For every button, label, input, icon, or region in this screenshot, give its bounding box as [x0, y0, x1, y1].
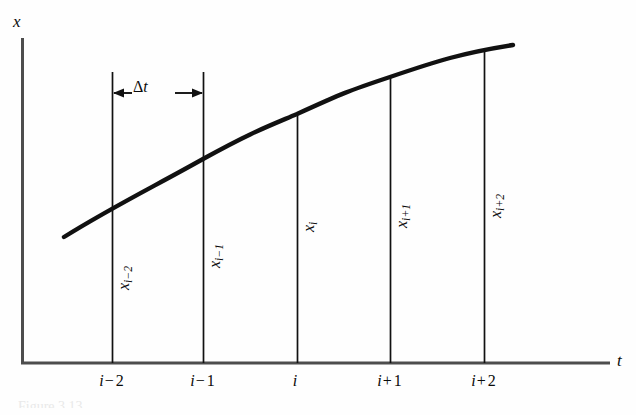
ordinate-sub-4: i+2: [494, 194, 506, 211]
tick-num-2: [299, 372, 301, 389]
tick-num-4: 2: [487, 372, 497, 389]
x-axis-label: t: [617, 352, 622, 369]
ordinate-label-i-plus-1: xi+1: [394, 204, 413, 228]
ordinate-base-2: x: [300, 225, 317, 232]
ordinate-base-1: x: [206, 261, 223, 268]
ordinate-label-i-minus-2: xi−2: [116, 266, 135, 290]
tick-label-i-plus-2: i+2: [471, 373, 496, 389]
axis-group: [21, 38, 610, 364]
tick-op-4: +: [476, 372, 487, 389]
ordinate-sub-3: i+1: [400, 204, 412, 221]
tick-op-0: −: [104, 372, 115, 389]
tick-num-3: 1: [393, 372, 403, 389]
tick-label-i-minus-1: i−1: [190, 373, 215, 389]
delta-t-label: Δt: [133, 79, 148, 95]
ordinate-base-0: x: [115, 283, 132, 290]
ordinate-sub-0: i−2: [122, 266, 134, 283]
delta-t-arrowhead-left: [113, 89, 124, 98]
ordinate-label-i-minus-1: xi−1: [207, 244, 226, 268]
tick-op-3: +: [382, 372, 393, 389]
figure-drawing: [0, 0, 636, 415]
tick-num-0: 2: [115, 372, 125, 389]
tick-label-i-minus-2: i−2: [99, 373, 124, 389]
figure-caption-clipped: Figure 3.13: [18, 399, 83, 408]
delta-t-arrowhead-right: [192, 89, 203, 98]
figure-canvas: x t Δt xi−2 xi−1 xi xi+1 xi+2 i−2 i−1 i …: [0, 0, 636, 415]
ordinate-label-i: xi: [301, 222, 320, 232]
y-axis-label: x: [13, 13, 21, 30]
trajectory-curve: [64, 45, 513, 237]
delta-t-variable: t: [143, 78, 147, 95]
tick-label-i-plus-1: i+1: [377, 373, 402, 389]
tick-label-i: i: [293, 373, 301, 389]
ordinate-sub-2: i: [307, 222, 319, 225]
ordinate-sub-1: i−1: [213, 244, 225, 261]
delta-t-arrow: [113, 89, 203, 98]
tick-op-1: −: [195, 372, 206, 389]
ordinate-label-i-plus-2: xi+2: [488, 194, 507, 218]
grid-line-group: [113, 50, 485, 363]
delta-symbol: Δ: [133, 78, 143, 95]
ordinate-base-4: x: [487, 211, 504, 218]
tick-num-1: 1: [206, 372, 216, 389]
ordinate-base-3: x: [393, 221, 410, 228]
